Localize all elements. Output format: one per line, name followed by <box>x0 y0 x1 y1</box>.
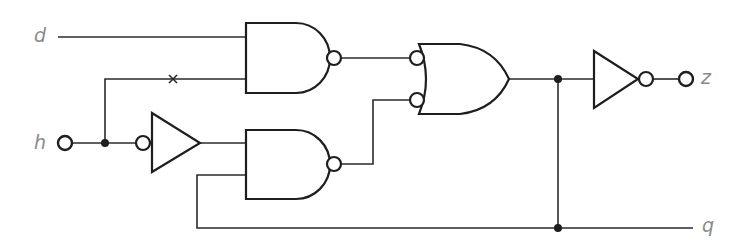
junction-dot-h <box>101 139 109 147</box>
output-label-z: z <box>701 68 711 87</box>
input-label-d: d <box>34 26 46 45</box>
output-terminal-z <box>679 72 693 86</box>
logic-circuit-diagram <box>0 0 751 250</box>
nand-gate-1 <box>246 23 341 93</box>
input-terminal-h <box>58 136 72 150</box>
nand-gate-2 <box>246 130 341 199</box>
junction-dot-q <box>554 224 562 232</box>
not-gate <box>594 51 653 108</box>
input-label-h: h <box>34 133 46 152</box>
inverted-input-buffer <box>136 113 200 172</box>
or-gate-inverted-inputs <box>410 44 509 114</box>
output-label-q: q <box>702 216 714 235</box>
junction-dot-or-out <box>554 75 562 83</box>
wire-nand2-to-or <box>341 100 410 164</box>
